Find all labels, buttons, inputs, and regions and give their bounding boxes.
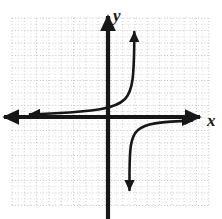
y-axis-label: y	[111, 6, 121, 25]
axes	[4, 16, 200, 219]
grid	[12, 18, 209, 206]
graph-figure: y x	[0, 0, 222, 219]
coordinate-plane-svg: y x	[0, 0, 222, 219]
x-axis-label: x	[206, 111, 216, 130]
grid-vertical-lines	[12, 18, 209, 206]
curve-upper-left-branch	[30, 32, 134, 114]
